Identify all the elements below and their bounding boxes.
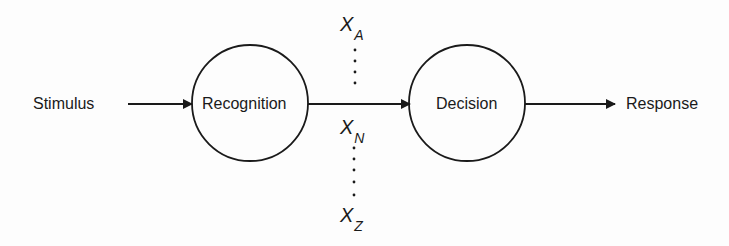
diagram-canvas	[0, 0, 729, 246]
variable-x-n: XN	[340, 117, 364, 141]
variable-x-z: XZ	[340, 205, 363, 229]
response-label: Response	[626, 96, 698, 112]
decision-label: Decision	[436, 96, 497, 112]
stimulus-label: Stimulus	[33, 96, 94, 112]
recognition-label: Recognition	[202, 96, 287, 112]
variable-x-a: XA	[340, 14, 364, 38]
